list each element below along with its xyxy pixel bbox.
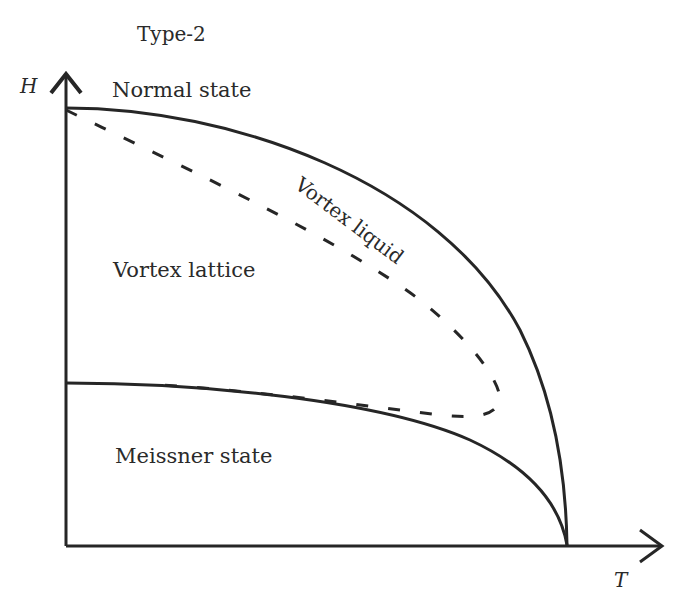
diagram-title: Type-2 [137, 22, 206, 46]
diagram-graphics [0, 0, 699, 611]
t-axis-label: T [614, 568, 627, 592]
normal-state-label: Normal state [112, 78, 251, 102]
upper-critical-field-curve [66, 108, 567, 545]
h-axis-label: H [20, 74, 37, 98]
vortex-lattice-label: Vortex lattice [113, 258, 255, 282]
meissner-state-label: Meissner state [115, 444, 272, 468]
phase-diagram: Type-2 H T Normal state Vortex lattice V… [0, 0, 699, 611]
